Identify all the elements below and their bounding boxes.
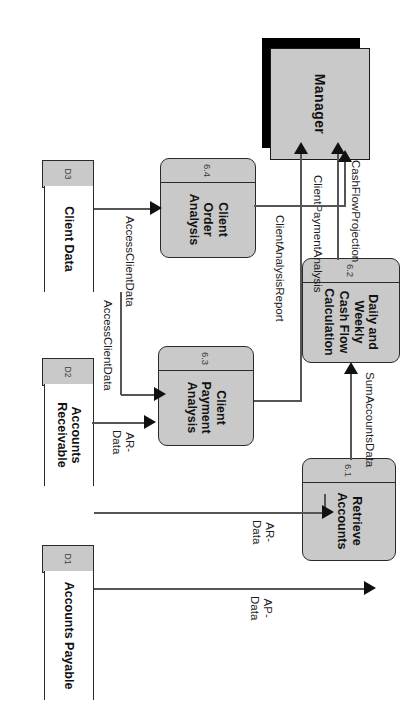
flow-clientanalysisreport-arrow [338, 150, 352, 162]
flow-accessclientdata-64-label: AccessClientData [123, 216, 136, 307]
flow-accessclientdata-63-arrow [154, 387, 166, 401]
process-6-4-name: Client OrderAnalysis [161, 182, 255, 257]
process-6-4[interactable]: 6.4 Client OrderAnalysis [160, 158, 256, 258]
flow-ardata-63-label: AR-Data [110, 430, 136, 454]
flow-sumaccountsdata-line [351, 372, 353, 460]
process-6-3[interactable]: 6.3 ClientPaymentAnalysis [158, 346, 254, 446]
data-store-d2-name: AccountsReceivable [44, 384, 94, 486]
flow-accessclientdata-63-label: AccessClientData [101, 300, 114, 391]
data-store-d3[interactable]: D3 Client Data [44, 160, 94, 292]
dfd-canvas: Manager 6.2 Daily andWeeklyCash FlowCalc… [0, 0, 414, 719]
flow-clientanalysisreport-vline [254, 205, 346, 207]
flow-clientanalysisreport-hline [345, 158, 347, 206]
flow-ardata-61-vline [94, 512, 326, 514]
entity-face-manager: Manager [270, 48, 370, 160]
flow-accessclientdata-64-line [94, 208, 152, 210]
process-6-4-number: 6.4 [161, 159, 255, 183]
flow-sumaccountsdata-label: SumAccountsData [363, 372, 376, 467]
flow-accessclientdata-63-vline [121, 394, 156, 396]
data-store-d1-name: Accounts Payable [44, 571, 94, 700]
flow-clientpaymentanalysis-arrow [294, 142, 308, 154]
flow-apdata-61-arrow [364, 581, 376, 595]
flow-accessclientdata-63-hline [121, 292, 123, 395]
data-store-d2[interactable]: D2 AccountsReceivable [44, 358, 94, 486]
process-6-1-number: 6.1 [303, 459, 395, 483]
data-store-d1-number: D1 [42, 545, 94, 573]
data-store-d1[interactable]: D1 Accounts Payable [44, 545, 94, 700]
flow-apdata-61-line [94, 588, 366, 590]
flow-clientanalysisreport-label: ClientAnalysisReport [273, 215, 286, 322]
data-store-d3-number: D3 [42, 160, 94, 188]
entity-label-manager: Manager [312, 74, 328, 134]
data-store-d2-number: D2 [42, 358, 94, 386]
external-entity-manager: Manager [262, 38, 370, 158]
flow-ardata-61-label: AR-Data [250, 520, 276, 544]
data-store-d3-name: Client Data [44, 186, 94, 292]
flow-clientpaymentanalysis-vline [254, 400, 302, 402]
flow-ardata-61-arrow [322, 505, 334, 519]
flow-accessclientdata-64-arrow [150, 201, 162, 215]
flow-cashflowprojection-label: CashFlowProjection [349, 160, 362, 262]
flow-sumaccountsdata-arrow [344, 362, 358, 374]
flow-clientpaymentanalysis-label: ClientPaymentAnalysis [311, 175, 324, 293]
flow-apdata-61-label: AP-Data [248, 596, 274, 620]
flow-ardata-63-line [92, 422, 146, 424]
process-6-3-number: 6.3 [159, 347, 253, 371]
process-6-1-name: RetrieveAccounts [303, 482, 395, 560]
process-6-2-name: Daily andWeeklyCash FlowCalculation [303, 282, 399, 362]
flow-ardata-63-arrow [144, 415, 156, 429]
process-6-1[interactable]: 6.1 RetrieveAccounts [302, 458, 396, 561]
process-6-3-name: ClientPaymentAnalysis [159, 370, 253, 445]
flow-clientpaymentanalysis-hline [301, 152, 303, 402]
